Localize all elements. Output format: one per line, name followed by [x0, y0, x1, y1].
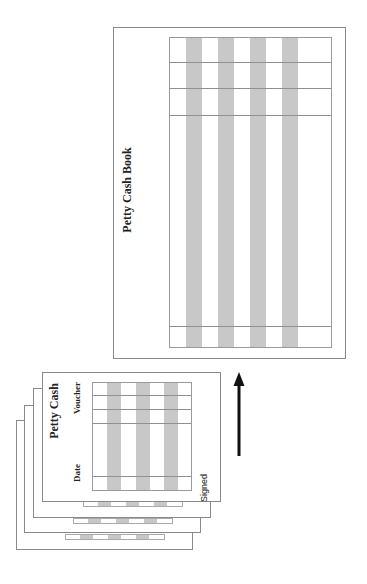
- voucher-column-band: [164, 383, 178, 490]
- book-row-line: [170, 326, 331, 327]
- voucher-row-line: [93, 476, 191, 477]
- book-column-band: [218, 38, 234, 347]
- voucher-title: Petty Cash: [47, 383, 62, 439]
- book-column-band: [282, 38, 298, 347]
- book-row-line: [170, 115, 331, 116]
- voucher-column-band: [107, 383, 121, 490]
- voucher-sheet-4-strip: [65, 534, 165, 540]
- book-row-line: [170, 62, 331, 63]
- signed-label: Signed: [199, 474, 209, 502]
- voucher-row-line: [93, 395, 191, 396]
- book-grid: [169, 37, 332, 348]
- book-column-band: [250, 38, 266, 347]
- voucher-label: Voucher: [72, 382, 82, 414]
- date-label: Date: [72, 464, 82, 482]
- voucher-grid: [92, 382, 192, 491]
- book-column-band: [186, 38, 202, 347]
- book-title: Petty Cash Book: [120, 147, 135, 232]
- book-row-line: [170, 88, 331, 89]
- voucher-row-line: [93, 423, 191, 424]
- arrow-up-icon: [231, 370, 247, 460]
- voucher-column-band: [136, 383, 150, 490]
- voucher-sheet-3-strip: [73, 518, 173, 524]
- voucher-row-line: [93, 409, 191, 410]
